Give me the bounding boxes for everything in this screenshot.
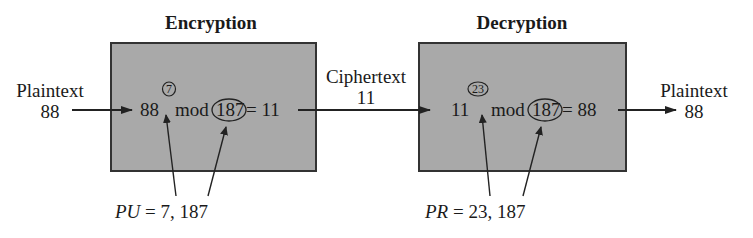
pr-modulus-pointer (523, 127, 541, 196)
diagram-overlay (0, 0, 753, 238)
decryption-exponent-circle (468, 82, 488, 96)
pu-exponent-pointer (166, 115, 176, 196)
encryption-modulus-circle (212, 99, 246, 121)
pu-modulus-pointer (208, 127, 226, 196)
pr-exponent-pointer (482, 115, 490, 196)
decryption-modulus-circle (528, 99, 562, 121)
encryption-exponent-circle (163, 82, 176, 96)
